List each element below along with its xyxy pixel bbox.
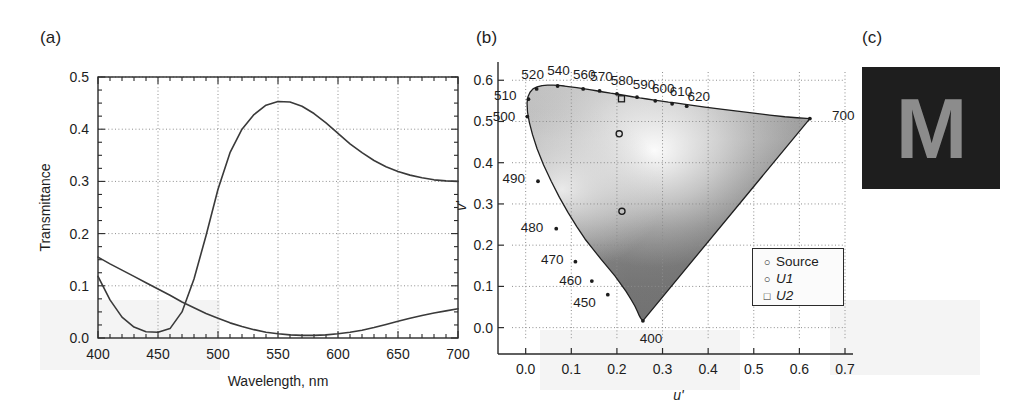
x-tick-label: 500 <box>206 346 230 362</box>
locus-wavelength-label: 450 <box>573 295 596 310</box>
locus-point <box>641 319 645 323</box>
locus-point <box>598 89 602 93</box>
locus-wavelength-label: 540 <box>547 63 570 78</box>
legend-item-u1: ○ U1 <box>758 270 836 287</box>
x-tick-label: 400 <box>86 346 110 362</box>
y-tick-label: 0.1 <box>474 278 494 294</box>
square-marker-icon: □ <box>758 290 776 302</box>
y-tick-label: 0.0 <box>474 320 494 336</box>
chromaticity-diagram: 0.00.10.20.30.40.50.60.00.10.20.30.40.50… <box>460 0 860 405</box>
locus-wavelength-label: 480 <box>521 220 544 235</box>
locus-wavelength-label: 700 <box>832 108 855 123</box>
x-tick-label: 0.3 <box>653 361 673 377</box>
locus-point <box>635 95 639 99</box>
x-tick-label: 0.1 <box>562 361 582 377</box>
panel-a-group: 4004505005506006507000.00.10.20.30.40.5W… <box>37 69 470 389</box>
locus-point <box>525 115 529 119</box>
locus-wavelength-label: 470 <box>541 252 564 267</box>
legend-label-u1: U1 <box>776 271 793 286</box>
locus-point <box>554 227 558 231</box>
x-tick-label: 0.7 <box>835 361 855 377</box>
locus-wavelength-label: 490 <box>502 171 525 186</box>
legend-item-source: ○ Source <box>758 253 836 270</box>
locus-wavelength-label: 400 <box>640 331 663 346</box>
y-tick-label: 0.3 <box>474 196 494 212</box>
locus-wavelength-label: 460 <box>559 273 582 288</box>
y-tick-label: 0.0 <box>70 330 90 346</box>
y-tick-label: 0.5 <box>474 113 494 129</box>
locus-point <box>670 102 674 106</box>
chromaticity-legend: ○ Source ○ U1 □ U2 <box>752 248 844 306</box>
y-tick-label: 0.6 <box>474 72 494 88</box>
legend-label-source: Source <box>776 254 819 269</box>
y-tick-label: 0.5 <box>70 69 90 85</box>
locus-wavelength-label: 570 <box>590 69 613 84</box>
circle-marker-icon: ○ <box>758 256 776 268</box>
locus-point <box>606 293 610 297</box>
color-swatch-m: M <box>862 67 1000 189</box>
locus-point <box>808 117 812 121</box>
panel-label-c: (c) <box>862 28 882 48</box>
y-axis-title: Transmittance <box>37 163 53 251</box>
x-axis-title: u' <box>673 387 685 403</box>
panel-a-plot: 4004505005506006507000.00.10.20.30.40.5W… <box>0 0 470 405</box>
locus-point <box>527 97 531 101</box>
locus-wavelength-label: 500 <box>493 109 516 124</box>
panel-b-plot: 0.00.10.20.30.40.50.60.00.10.20.30.40.50… <box>460 0 860 405</box>
panel-b-group: 0.00.10.20.30.40.50.60.00.10.20.30.40.50… <box>453 62 855 403</box>
figure-canvas: (a) 4004505005506006507000.00.10.20.30.4… <box>0 0 1030 405</box>
y-tick-label: 0.4 <box>474 155 494 171</box>
letter-m-glyph: M <box>896 85 967 171</box>
locus-point <box>574 260 578 264</box>
transmittance-chart: 4004505005506006507000.00.10.20.30.40.5W… <box>0 0 470 405</box>
x-tick-label: 0.4 <box>698 361 718 377</box>
y-tick-label: 0.3 <box>70 173 90 189</box>
locus-point <box>590 279 594 283</box>
locus-point <box>556 84 560 88</box>
x-tick-label: 0.0 <box>516 361 536 377</box>
x-tick-label: 0.2 <box>607 361 627 377</box>
locus-point <box>581 87 585 91</box>
y-axis-title: v' <box>453 200 469 211</box>
locus-wavelength-label: 620 <box>687 89 710 104</box>
locus-point <box>653 99 657 103</box>
legend-item-u2: □ U2 <box>758 287 836 304</box>
x-tick-label: 600 <box>326 346 350 362</box>
y-tick-label: 0.2 <box>70 226 90 242</box>
locus-point <box>685 104 689 108</box>
circle-marker-icon: ○ <box>758 273 776 285</box>
locus-wavelength-label: 580 <box>611 73 634 88</box>
legend-label-u2: U2 <box>776 288 793 303</box>
locus-point <box>535 87 539 91</box>
locus-wavelength-label: 510 <box>494 88 517 103</box>
x-axis-title: Wavelength, nm <box>228 373 329 389</box>
locus-point <box>536 179 540 183</box>
data-series-u2 <box>98 257 458 335</box>
y-tick-label: 0.4 <box>70 121 90 137</box>
y-tick-label: 0.2 <box>474 237 494 253</box>
y-tick-label: 0.1 <box>70 278 90 294</box>
x-tick-label: 450 <box>146 346 170 362</box>
x-tick-label: 0.6 <box>790 361 810 377</box>
locus-wavelength-label: 520 <box>521 67 544 82</box>
x-tick-label: 0.5 <box>744 361 764 377</box>
x-tick-label: 650 <box>386 346 410 362</box>
x-tick-label: 550 <box>266 346 290 362</box>
